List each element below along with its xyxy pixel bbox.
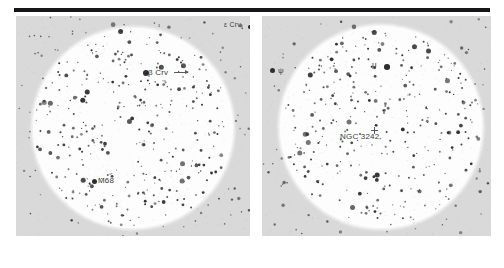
left-starfield bbox=[16, 16, 250, 236]
right-star-chart: μ ψ NGC 3242 bbox=[262, 16, 491, 236]
psi-star-marker bbox=[270, 68, 275, 73]
label-m68: M68 bbox=[98, 176, 114, 185]
figure-root: β Crv ε Crv M68 μ ψ NGC 3242 bbox=[0, 0, 504, 268]
label-epsilon-crv: ε Crv bbox=[224, 21, 241, 28]
right-starfield bbox=[262, 16, 491, 236]
label-psi: ψ bbox=[278, 66, 284, 75]
m68-cluster-marker bbox=[92, 179, 97, 184]
label-ngc-3242: NGC 3242 bbox=[340, 132, 379, 141]
top-rule-divider bbox=[14, 8, 490, 12]
ngc-3242-cross-icon-h bbox=[371, 130, 378, 131]
left-star-chart: β Crv ε Crv M68 bbox=[16, 16, 250, 236]
mu-star-marker bbox=[384, 64, 390, 70]
label-mu: μ bbox=[372, 60, 377, 69]
epsilon-crv-star-marker bbox=[248, 25, 250, 29]
label-beta-crv: β Crv bbox=[148, 68, 168, 77]
beta-crv-arrow-icon bbox=[174, 72, 188, 73]
